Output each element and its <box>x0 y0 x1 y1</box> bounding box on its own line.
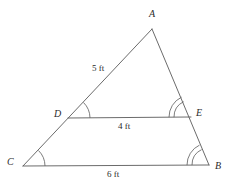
vertex-label-d: D <box>54 109 61 119</box>
vertex-label-a: A <box>149 9 155 19</box>
angle-mark-b <box>187 145 202 165</box>
vertex-label-b: B <box>215 161 221 171</box>
measure-label-da: 5 ft <box>92 64 104 73</box>
segment-base-cb <box>23 165 209 166</box>
segment-de <box>68 117 191 118</box>
measure-label-de: 4 ft <box>118 122 130 131</box>
vertex-label-e: E <box>196 108 202 118</box>
triangle-diagram-svg <box>0 0 235 185</box>
measure-label-cb: 6 ft <box>107 170 119 179</box>
segment-side-ab <box>152 29 209 165</box>
segment-side-ca <box>23 29 152 166</box>
angle-mark-d <box>84 103 91 118</box>
angle-mark-c <box>39 151 46 166</box>
geometry-figure: A B C D E 5 ft 4 ft 6 ft <box>0 0 235 185</box>
vertex-label-c: C <box>7 157 14 167</box>
